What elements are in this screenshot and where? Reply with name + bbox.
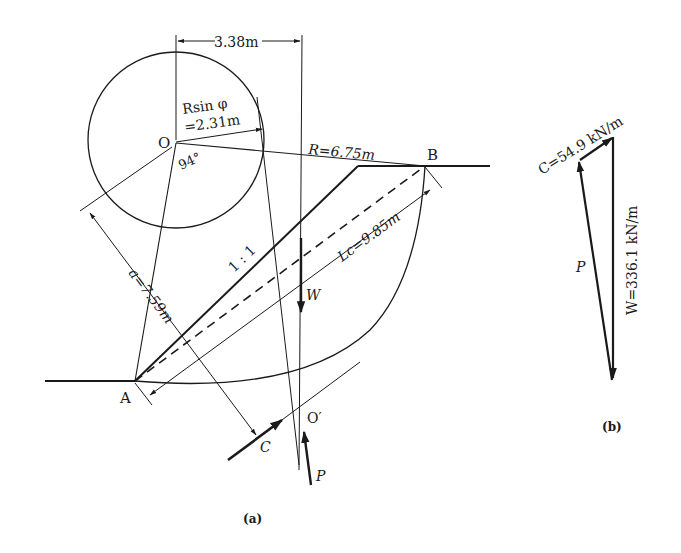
label-lever-arm: a=7.59m bbox=[126, 265, 178, 326]
line-OA bbox=[135, 143, 176, 381]
label-A: A bbox=[119, 389, 131, 407]
cohesion-force-arrow bbox=[228, 420, 282, 460]
line-O-to-lever bbox=[80, 147, 172, 211]
label-W: W bbox=[306, 287, 322, 303]
label-radius: R=6.75m bbox=[307, 141, 376, 163]
label-O-prime: O′ bbox=[307, 410, 322, 426]
label-C: C bbox=[260, 439, 271, 455]
radius-line-OB bbox=[176, 143, 425, 166]
label-slope-ratio: 1 : 1 bbox=[225, 242, 259, 275]
caption-b: (b) bbox=[602, 420, 622, 434]
label-chord-length: Lc=9.85m bbox=[334, 208, 404, 265]
caption-a: (a) bbox=[243, 512, 262, 526]
label-polygon-P: P bbox=[575, 259, 586, 275]
chord-dim-tick-A bbox=[135, 383, 152, 405]
label-B: B bbox=[427, 146, 438, 164]
label-P: P bbox=[315, 468, 326, 484]
label-dim-3.38: 3.38m bbox=[214, 34, 258, 50]
chord-AB bbox=[135, 166, 425, 381]
slope-face bbox=[135, 166, 358, 381]
figure-a bbox=[45, 35, 490, 485]
label-angle-94: 94° bbox=[176, 149, 203, 172]
lever-arm-dimension bbox=[90, 213, 256, 435]
reaction-force-arrow bbox=[304, 432, 311, 485]
label-weight-force: W=336.1 kN/m bbox=[624, 206, 640, 315]
slope-stability-diagram: O 3.38m Rsin φ =2.31m 94° R=6.75m B 1 : … bbox=[0, 0, 681, 553]
chord-dim-tick-B bbox=[425, 167, 442, 188]
label-O: O bbox=[158, 134, 170, 152]
